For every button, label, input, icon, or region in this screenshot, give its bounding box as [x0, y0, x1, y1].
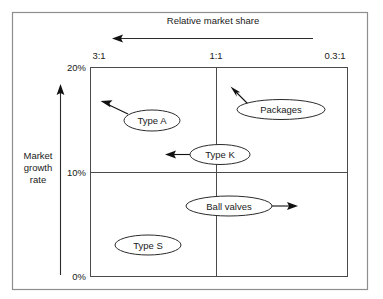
- y-axis-title-line1: Market: [23, 150, 52, 161]
- bubble-label-type-s: Type S: [133, 240, 163, 251]
- bubble-ball-valves[interactable]: Ball valves: [186, 196, 298, 216]
- bubble-label-type-k: Type K: [205, 149, 235, 160]
- x-axis-title: Relative market share: [167, 15, 259, 26]
- y-tick-label-bottom: 0%: [72, 271, 86, 282]
- bcg-matrix-figure: Relative market share 3:1 1:1 0.3:1 Mark…: [0, 0, 383, 299]
- y-tick-label-top: 20%: [67, 62, 87, 73]
- y-axis-direction-arrow: [57, 84, 65, 275]
- bubble-type-s[interactable]: Type S: [115, 235, 181, 255]
- figure-outer-border: [13, 13, 368, 290]
- bubble-type-k[interactable]: Type K: [165, 145, 250, 165]
- y-axis-title-line3: rate: [30, 174, 46, 185]
- y-tick-label-middle: 10%: [67, 167, 87, 178]
- bubble-label-ball-valves: Ball valves: [206, 201, 252, 212]
- bubble-label-type-a: Type A: [137, 115, 167, 126]
- x-tick-label-right: 0.3:1: [324, 50, 345, 61]
- bubble-packages[interactable]: Packages: [231, 87, 326, 120]
- x-tick-label-center: 1:1: [209, 50, 222, 61]
- y-axis-title-line2: growth: [24, 162, 53, 173]
- bubble-label-packages: Packages: [260, 104, 302, 115]
- x-axis-direction-arrow: [112, 35, 313, 43]
- bubble-type-a[interactable]: Type A: [101, 100, 181, 131]
- x-tick-label-left: 3:1: [92, 50, 105, 61]
